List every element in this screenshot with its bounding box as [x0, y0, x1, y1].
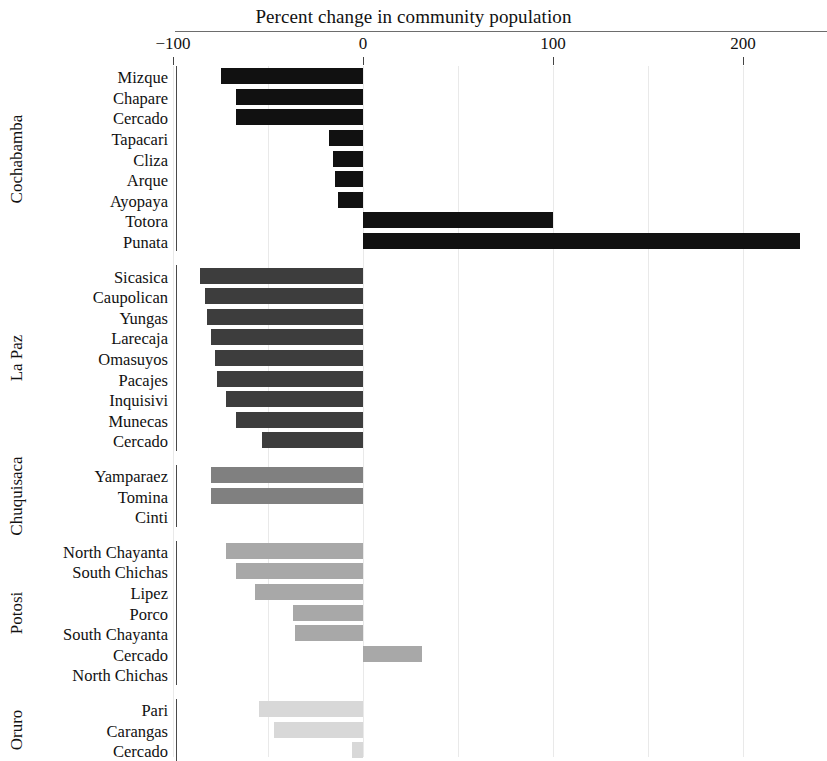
bar-row: Punata	[0, 231, 827, 252]
category-label: Omasuyos	[36, 352, 168, 369]
bar	[211, 467, 363, 483]
bar-row: Cercado	[0, 644, 827, 665]
bar	[236, 89, 363, 105]
bar	[215, 350, 363, 366]
bar	[274, 722, 363, 738]
bar	[352, 742, 363, 758]
bar	[255, 584, 363, 600]
bar-row: Carangas	[0, 719, 827, 740]
bar	[236, 109, 363, 125]
category-label: Larecaja	[36, 331, 168, 348]
bar-group-chuquisaca: ChuquisacaYamparaezTominaCinti	[0, 465, 827, 527]
category-label: Cercado	[36, 111, 168, 128]
bar	[211, 329, 363, 345]
x-tick-label: 200	[730, 34, 756, 54]
category-label: Totora	[36, 214, 168, 231]
x-tick-label: −100	[155, 34, 190, 54]
bar-row: Munecas	[0, 410, 827, 431]
bar-row: Sicasica	[0, 265, 827, 286]
bar-row: Totora	[0, 210, 827, 231]
bar	[207, 309, 363, 325]
plot-area: CochabambaMizqueChapareCercadoTapacariCl…	[0, 66, 827, 757]
bar	[259, 701, 364, 717]
category-label: Carangas	[36, 724, 168, 741]
bar-row: North Chayanta	[0, 541, 827, 562]
bar-row: South Chayanta	[0, 623, 827, 644]
bar	[295, 625, 363, 641]
bar-row: Caupolican	[0, 286, 827, 307]
x-tick-label: 0	[359, 34, 368, 54]
bar-row: Lipez	[0, 582, 827, 603]
bar-row: Larecaja	[0, 327, 827, 348]
x-tick-mark	[553, 57, 554, 65]
category-label: North Chayanta	[36, 545, 168, 562]
x-tick-mark	[363, 57, 364, 65]
bar	[205, 288, 363, 304]
bar	[221, 68, 364, 84]
category-label: Arque	[36, 173, 168, 190]
category-label: South Chayanta	[36, 627, 168, 644]
bar	[335, 171, 364, 187]
category-label: Yamparaez	[36, 469, 168, 486]
chart-title: Percent change in community population	[0, 6, 827, 28]
category-label: Mizque	[36, 70, 168, 87]
bar-row: Ayopaya	[0, 190, 827, 211]
x-tick-label: 100	[540, 34, 566, 54]
category-label: Pacajes	[36, 373, 168, 390]
bar	[236, 412, 363, 428]
bar	[226, 391, 363, 407]
bar	[217, 371, 363, 387]
category-label: Cercado	[36, 744, 168, 761]
bar-row: Cinti	[0, 506, 827, 527]
bar-group-oruro: OruroPariCarangasCercado	[0, 699, 827, 761]
bar-row: Pacajes	[0, 368, 827, 389]
bar	[363, 233, 800, 249]
bar-row: Tapacari	[0, 128, 827, 149]
bar-row: Tomina	[0, 485, 827, 506]
category-label: Tomina	[36, 490, 168, 507]
bar-row: South Chichas	[0, 561, 827, 582]
category-label: Cinti	[36, 510, 168, 527]
bar	[293, 605, 363, 621]
bar	[363, 212, 553, 228]
bar	[200, 268, 363, 284]
bar-row: Cliza	[0, 148, 827, 169]
category-label: Chapare	[36, 91, 168, 108]
category-label: Ayopaya	[36, 194, 168, 211]
category-label: Tapacari	[36, 132, 168, 149]
category-label: Porco	[36, 607, 168, 624]
bar	[338, 192, 363, 208]
bar	[363, 646, 422, 662]
category-label: Inquisivi	[36, 393, 168, 410]
bar-row: Yungas	[0, 307, 827, 328]
x-axis-line	[175, 31, 827, 32]
category-label: Pari	[36, 703, 168, 720]
bar-row: North Chichas	[0, 664, 827, 685]
category-label: Munecas	[36, 414, 168, 431]
bar-row: Yamparaez	[0, 465, 827, 486]
x-tick-mark	[173, 57, 174, 65]
bar-row: Omasuyos	[0, 348, 827, 369]
category-label: Caupolican	[36, 290, 168, 307]
bar-group-cochabamba: CochabambaMizqueChapareCercadoTapacariCl…	[0, 66, 827, 251]
bar-row: Arque	[0, 169, 827, 190]
category-label: North Chichas	[36, 668, 168, 685]
bar-row: Chapare	[0, 87, 827, 108]
bar	[329, 130, 363, 146]
category-label: Cercado	[36, 648, 168, 665]
category-label: Yungas	[36, 311, 168, 328]
bar-group-potosi: PotosiNorth ChayantaSouth ChichasLipezPo…	[0, 541, 827, 685]
bar	[333, 151, 363, 167]
bar-row: Inquisivi	[0, 389, 827, 410]
bar-row: Cercado	[0, 430, 827, 451]
bar-row: Mizque	[0, 66, 827, 87]
category-label: Sicasica	[36, 270, 168, 287]
x-tick-mark	[743, 57, 744, 65]
bar	[262, 432, 363, 448]
category-label: Lipez	[36, 586, 168, 603]
category-label: Punata	[36, 235, 168, 252]
category-label: Cercado	[36, 434, 168, 451]
category-label: Cliza	[36, 153, 168, 170]
bar-row: Porco	[0, 602, 827, 623]
